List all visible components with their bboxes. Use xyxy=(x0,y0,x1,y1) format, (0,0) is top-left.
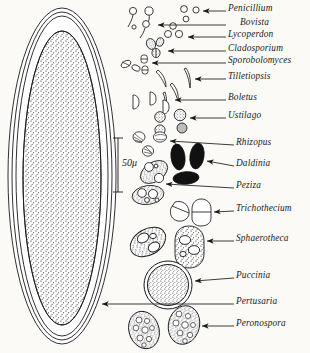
peronospora-spores xyxy=(124,302,204,352)
cladosporium-spores xyxy=(145,37,165,58)
label-penicillium: Penicillium xyxy=(228,4,273,13)
label-daldinia: Daldinia xyxy=(236,159,270,168)
label-peronospora: Peronospora xyxy=(236,319,286,328)
label-peziza: Peziza xyxy=(236,181,261,190)
arrow-rhizopus xyxy=(170,141,234,145)
bovista-spores xyxy=(128,7,153,38)
label-rhizopus: Rhizopus xyxy=(236,138,271,147)
scale-bar-label: 50μ xyxy=(122,157,137,168)
label-pertusaria: Pertusaria xyxy=(236,297,277,306)
label-sphaerotheca: Sphaerotheca xyxy=(236,234,289,243)
label-puccinia: Puccinia xyxy=(236,271,270,280)
peziza-spore xyxy=(136,156,172,188)
label-trichothecium: Trichothecium xyxy=(236,204,292,213)
rhizopus-spores xyxy=(133,132,167,156)
label-ustilago: Ustilago xyxy=(228,111,261,120)
spore-size-comparison-figure: 50μ Penicillium Bovista Lycoperdon Clado… xyxy=(0,0,310,353)
tilletiopsis-spores xyxy=(156,68,190,109)
arrow-trichothecium xyxy=(214,211,234,212)
peziza-spore-second xyxy=(131,183,165,206)
sporobolomyces-spores xyxy=(120,55,148,74)
arrow-puccinia xyxy=(195,278,234,281)
puccinia-spore xyxy=(144,261,192,309)
label-sporobolomyces: Sporobolomyces xyxy=(228,56,291,65)
trichothecium-spores xyxy=(170,199,211,226)
ustilago-spores xyxy=(155,109,187,135)
arrow-peziza xyxy=(166,184,234,188)
arrow-daldinia xyxy=(207,161,234,166)
pertusaria-spore xyxy=(8,8,116,344)
label-tilletiopsis: Tilletiopsis xyxy=(228,72,271,81)
label-lycoperdon: Lycoperdon xyxy=(228,30,273,39)
label-boletus: Boletus xyxy=(228,93,257,102)
label-bovista: Bovista xyxy=(240,18,269,27)
daldinia-spores xyxy=(169,142,205,185)
penicillium-spores xyxy=(181,6,199,22)
label-cladosporium: Cladosporium xyxy=(228,44,283,53)
